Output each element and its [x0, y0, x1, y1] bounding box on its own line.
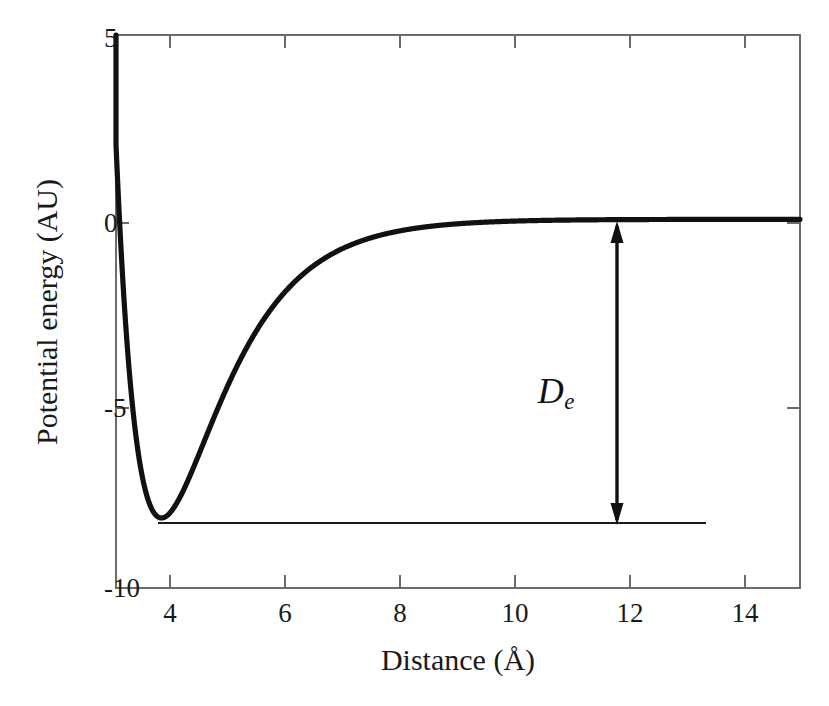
de-subscript: e — [564, 389, 574, 414]
x-tick-label-6: 6 — [278, 600, 292, 627]
x-tick-label-4: 4 — [163, 600, 177, 627]
x-axis-ticks-top — [170, 35, 745, 48]
de-symbol: D — [538, 371, 564, 411]
potential-energy-curve — [116, 35, 800, 518]
plot-frame — [116, 35, 800, 588]
de-annotation: De — [538, 373, 575, 413]
potential-energy-chart: 4 6 8 10 12 14 5 0 -5 -10 Distance (Å) P… — [0, 0, 829, 706]
x-tick-label-8: 8 — [393, 600, 407, 627]
x-axis-title: Distance (Å) — [381, 645, 535, 675]
x-axis-ticks-bottom — [170, 575, 745, 588]
y-axis-title: Potential energy (AU) — [32, 179, 62, 445]
de-arrow-head-down — [611, 503, 624, 525]
x-tick-label-14: 14 — [732, 600, 759, 627]
x-tick-label-10: 10 — [502, 600, 529, 627]
de-arrow — [611, 221, 624, 525]
x-tick-label-12: 12 — [617, 600, 644, 627]
de-arrow-head-up — [611, 221, 624, 243]
y-axis-ticks-right — [787, 223, 800, 408]
